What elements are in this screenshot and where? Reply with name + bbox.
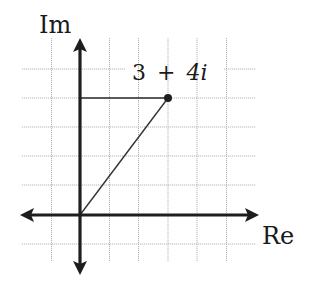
point-label-imag: 4 <box>185 60 200 85</box>
point-marker <box>164 94 172 102</box>
complex-plane-diagram: Im Re 3 + 4i <box>0 0 312 300</box>
point-label-op: + <box>157 60 175 85</box>
imaginary-axis-label: Im <box>39 11 71 39</box>
point-label-real: 3 <box>132 60 146 85</box>
real-axis <box>20 208 259 222</box>
point-label-i: i <box>200 60 207 85</box>
point-label: 3 + 4i <box>132 60 207 85</box>
real-axis-label: Re <box>262 222 294 250</box>
